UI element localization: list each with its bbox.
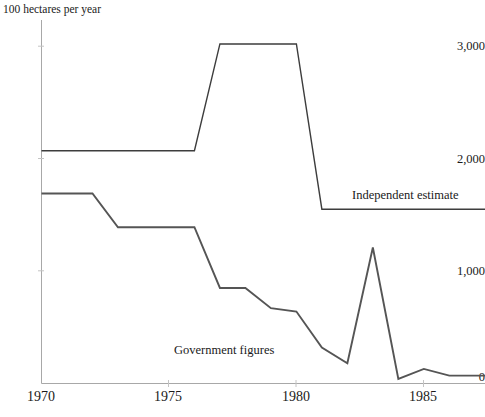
chart-plot-area xyxy=(0,0,485,417)
chart-figure: 100 hectares per year 3,000 2,000 1,000 … xyxy=(0,0,485,417)
series-line-government-figures xyxy=(42,193,485,379)
series-line-independent-estimate xyxy=(42,44,485,209)
